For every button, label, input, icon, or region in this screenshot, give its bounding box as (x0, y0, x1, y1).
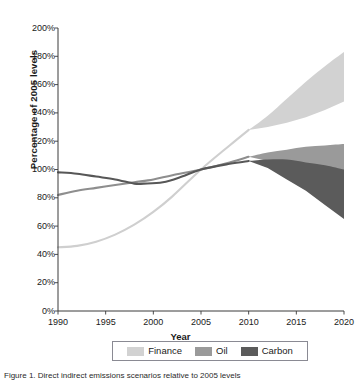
x-tick-2015: 2015 (274, 318, 318, 327)
legend-swatch-carbon (241, 347, 258, 356)
chart-legend: FinanceOilCarbon (112, 341, 308, 361)
x-tick-2000: 2000 (131, 318, 175, 327)
legend-item-carbon: Carbon (241, 346, 293, 356)
figure-caption-clipped: Figure 1. Direct indirect emissions scen… (0, 372, 361, 380)
legend-label-finance: Finance (148, 346, 182, 356)
x-tick-2010: 2010 (227, 318, 271, 327)
x-tick-2020: 2020 (322, 318, 361, 327)
legend-item-oil: Oil (195, 346, 228, 356)
figure-chart-2005-levels: Percentage of 2005 levels 0%20%40%60%80%… (0, 0, 361, 380)
x-tick-1995: 1995 (84, 318, 128, 327)
x-tick-1990: 1990 (36, 318, 80, 327)
legend-swatch-finance (127, 347, 144, 356)
figure-caption-text: Figure 1. Direct indirect emissions scen… (4, 372, 241, 380)
x-tick-2005: 2005 (179, 318, 223, 327)
legend-label-carbon: Carbon (262, 346, 293, 356)
legend-label-oil: Oil (216, 346, 228, 356)
legend-swatch-oil (195, 347, 212, 356)
x-axis-tick-labels: 1990199520002005201020152020 (0, 0, 361, 380)
legend-item-finance: Finance (127, 346, 182, 356)
